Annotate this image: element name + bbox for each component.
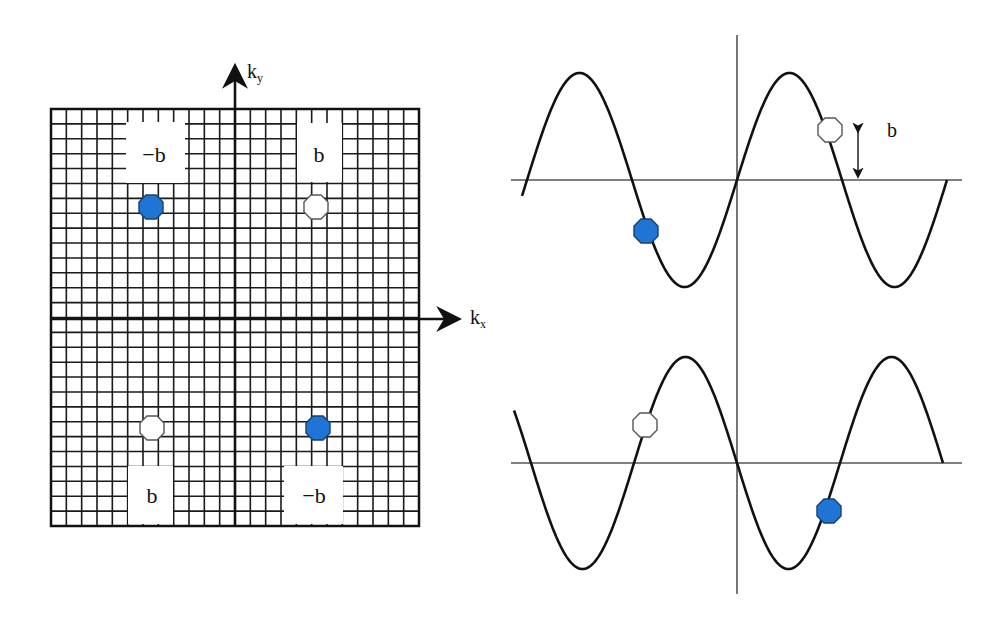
amplitude-label: b bbox=[887, 119, 897, 141]
kx-axis-label: kx bbox=[470, 306, 486, 331]
kspace-point-positive-bottom-left-white-octagon-icon bbox=[140, 416, 164, 440]
diagram-canvas: −bbb−b ky kx b bbox=[0, 0, 1000, 633]
top-wave-blue-marker-blue-octagon-icon bbox=[634, 219, 658, 243]
ky-axis-label: ky bbox=[247, 60, 263, 85]
waveform-panel: b bbox=[511, 35, 962, 594]
kspace-amplitude-label: −b bbox=[142, 142, 165, 167]
bottom-wave-white-marker-white-octagon-icon bbox=[633, 413, 657, 437]
kspace-panel: −bbb−b ky kx bbox=[51, 60, 486, 526]
kspace-amplitude-label: −b bbox=[302, 483, 325, 508]
kspace-amplitude-label: b bbox=[314, 142, 325, 167]
top-wave-white-marker-white-octagon-icon bbox=[818, 118, 842, 142]
bottom-wave-blue-marker-blue-octagon-icon bbox=[817, 499, 841, 523]
kspace-amplitude-label: b bbox=[147, 483, 158, 508]
kspace-point-negative-bottom-right-blue-octagon-icon bbox=[306, 416, 330, 440]
kspace-point-negative-top-left-blue-octagon-icon bbox=[139, 195, 163, 219]
kspace-point-positive-top-right-white-octagon-icon bbox=[304, 195, 328, 219]
